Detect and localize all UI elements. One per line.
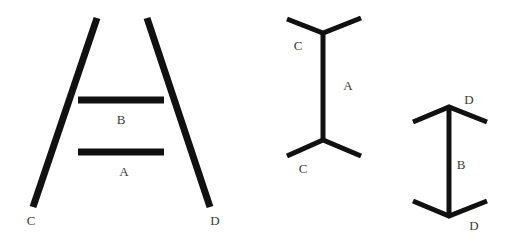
label-top-c: C: [294, 39, 303, 52]
label-shaft-a: A: [343, 79, 352, 92]
label-bar-a: A: [119, 165, 128, 178]
muller-lyer-arrows-in: [413, 107, 487, 216]
label-shaft-b: B: [457, 158, 466, 171]
label-top-d: D: [464, 93, 473, 106]
ponzo-right-leg: [147, 18, 210, 207]
label-leg-d: D: [210, 214, 219, 227]
label-bottom-d: D: [469, 219, 478, 232]
ponzo-left-leg: [33, 18, 97, 207]
label-bar-b: B: [117, 113, 126, 126]
top-fins: [287, 18, 361, 33]
label-bottom-c: C: [299, 162, 308, 175]
label-leg-c: C: [27, 214, 36, 227]
bottom-fins: [287, 140, 361, 156]
illusion-diagram: [0, 0, 511, 246]
